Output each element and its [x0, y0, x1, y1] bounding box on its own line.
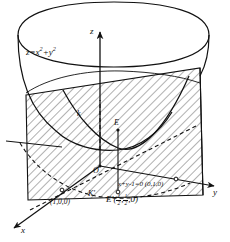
y-axis-label: y [213, 188, 217, 197]
plane-equation-label: x+y-1=0 (0,1,0) [118, 181, 163, 188]
plane-equation-text: x+y-1=0 [118, 180, 143, 188]
paraboloid-rim-ellipse [18, 2, 209, 67]
figure-canvas: z=x2+y2 z y x O k K' E (1,0,0) x+y-1=0 (… [0, 0, 230, 242]
x-axis-label: x [21, 226, 25, 235]
curve-k-prime-label: K' [88, 190, 95, 198]
plane-y-point-text: (0,1,0) [145, 180, 164, 188]
eq-y-exponent: 2 [53, 46, 56, 52]
E-prime-close-paren: ) [135, 194, 138, 204]
surface-equation-label: z=x2+y2 [26, 46, 56, 57]
point-E-prime-coordinate-label: E'(12,12,0) [106, 194, 138, 206]
x-intercept-coordinate-label: (1,0,0) [50, 198, 70, 206]
curve-k-label: k [77, 110, 81, 118]
point-x-intercept-marker [60, 188, 64, 192]
origin-label: O [93, 167, 99, 175]
point-y-intercept-marker [174, 177, 178, 181]
z-axis-label: z [90, 27, 94, 36]
point-E-label: E [114, 119, 119, 127]
